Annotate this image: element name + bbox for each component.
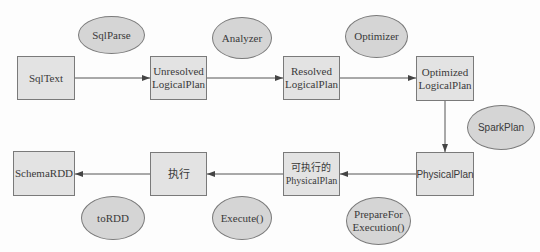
node-execute: 执行 [150,152,207,196]
step-prepare-for-execution: PrepareFor Execution() [346,197,411,245]
step-label: SparkPlan [478,121,524,134]
spark-sql-execution-flow-diagram: SqlText Unresolved LogicalPlan Resolved … [0,0,540,252]
node-label: Optimized LogicalPlan [418,66,471,92]
step-sparkplan: SparkPlan [467,105,535,150]
step-label: SqlParse [92,29,131,42]
node-resolved-logical-plan: Resolved LogicalPlan [283,56,340,100]
node-label: PhysicalPlan [416,168,473,181]
node-label: 执行 [168,168,190,181]
node-label: Resolved LogicalPlan [285,65,338,91]
step-analyzer: Analyzer [212,17,272,59]
node-schemardd: SchemaRDD [13,151,75,196]
node-label: SqlText [29,72,63,85]
node-label: Unresolved LogicalPlan [152,65,205,91]
node-label: SchemaRDD [15,167,73,180]
node-label: 可执行的 PhysicalPlan [286,161,338,187]
node-sqltext: SqlText [17,56,75,100]
step-optimizer: Optimizer [345,15,408,58]
node-unresolved-logical-plan: Unresolved LogicalPlan [150,56,207,100]
step-sqlparse: SqlParse [78,16,145,54]
step-label: Optimizer [354,30,399,43]
step-label: Execute() [221,212,264,225]
step-label: toRDD [97,212,129,225]
step-label: Analyzer [222,32,262,45]
node-physical-plan: PhysicalPlan [416,152,474,196]
step-label: PrepareFor Execution() [353,208,405,234]
step-tordd: toRDD [81,196,145,240]
node-optimized-logical-plan: Optimized LogicalPlan [416,56,474,101]
node-executable-physical-plan: 可执行的 PhysicalPlan [283,152,340,196]
step-execute-fn: Execute() [212,196,272,240]
